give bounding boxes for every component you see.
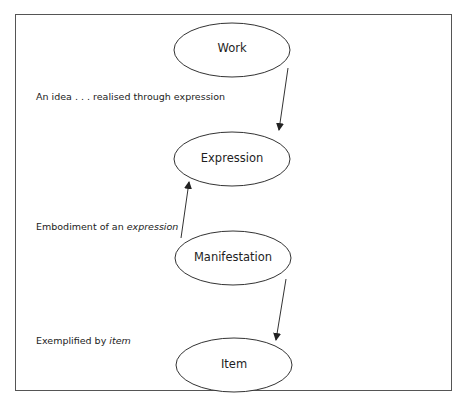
relation-label-work-expression: An idea . . . realised through expressio… xyxy=(36,91,225,103)
relation-text-italic: expression xyxy=(127,221,179,232)
arrow-work-to-expression xyxy=(279,68,288,130)
arrow-manifestation-to-expression xyxy=(181,182,189,238)
arrow-manifestation-to-item xyxy=(276,279,286,340)
frbr-diagram: Work Expression Manifestation Item An id… xyxy=(0,0,466,402)
node-manifestation-label: Manifestation xyxy=(173,250,293,264)
node-expression-label: Expression xyxy=(172,151,292,165)
relation-text: An idea . . . realised through expressio… xyxy=(36,91,225,102)
relation-text: Embodiment of an xyxy=(36,221,127,232)
relation-label-manifestation-item: Exemplified by item xyxy=(36,335,131,347)
relation-label-manifestation-expression: Embodiment of an expression xyxy=(36,221,178,233)
node-work-label: Work xyxy=(172,41,292,55)
relation-text: Exemplified by xyxy=(36,335,109,346)
relation-text-italic: item xyxy=(109,335,130,346)
node-item-label: Item xyxy=(174,357,294,371)
